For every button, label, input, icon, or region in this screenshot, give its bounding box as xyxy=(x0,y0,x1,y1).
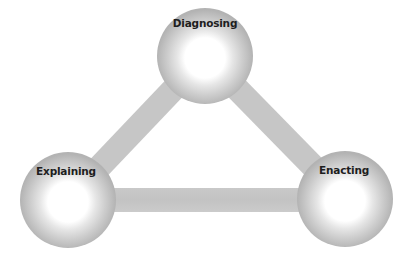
node-label-diagnosing: Diagnosing xyxy=(173,17,237,29)
node-explaining: Explaining xyxy=(20,152,116,248)
node-enacting: Enacting xyxy=(297,151,393,247)
node-label-enacting: Enacting xyxy=(319,164,369,176)
triangle-cycle-diagram: Diagnosing Explaining Enacting xyxy=(0,0,408,259)
node-diagnosing: Diagnosing xyxy=(157,8,253,104)
node-label-explaining: Explaining xyxy=(36,165,96,177)
